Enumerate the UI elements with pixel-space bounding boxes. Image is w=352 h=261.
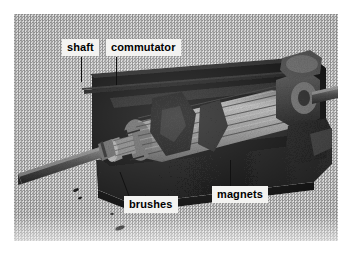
leader-line-commutator — [116, 57, 117, 85]
label-magnets: magnets — [212, 186, 268, 203]
figure-root: shaft commutator brushes magnets — [0, 0, 352, 261]
scan-bottom-fade — [14, 215, 338, 241]
label-commutator: commutator — [106, 39, 181, 56]
label-brushes: brushes — [124, 196, 178, 213]
label-shaft: shaft — [62, 39, 99, 56]
leader-line-shaft — [81, 57, 82, 82]
leader-line-magnets — [230, 160, 231, 186]
